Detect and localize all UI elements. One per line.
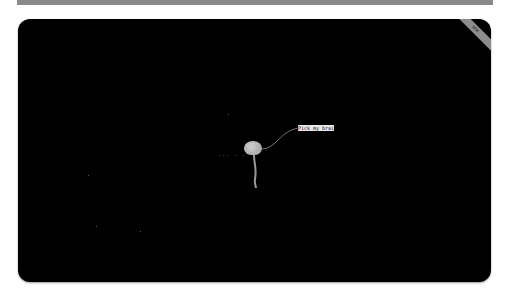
top-bar <box>17 0 493 5</box>
star <box>96 226 97 227</box>
label-connector <box>262 128 298 149</box>
brain-icon[interactable] <box>244 141 262 155</box>
screen: NEW --- · · Pick my brain <box>18 19 491 282</box>
brain-label[interactable]: Pick my brain <box>298 125 334 131</box>
star <box>228 114 229 115</box>
star <box>88 175 89 176</box>
star <box>140 231 141 232</box>
brain-stem <box>254 155 256 188</box>
trail-dots: --- · · <box>218 152 246 158</box>
